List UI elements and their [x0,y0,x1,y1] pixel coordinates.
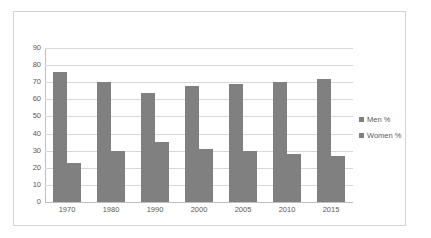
y-axis-tick-label: 80 [17,61,41,69]
x-axis-tick-label: 1970 [45,206,89,214]
bar-women-2015 [331,156,345,202]
x-axis-tick-labels: 1970198019902000200520102015 [45,206,353,220]
legend-swatch-icon [359,133,364,138]
bar-group [141,48,168,202]
bar-women-2000 [199,149,213,202]
y-axis-tick-label: 70 [17,78,41,86]
bar-women-2005 [243,151,257,202]
x-axis-tick-label: 2010 [265,206,309,214]
bar-men-1990 [141,93,155,203]
bar-men-2010 [273,82,287,202]
bar-group [229,48,256,202]
bar-men-1970 [53,72,67,202]
bar-group [97,48,124,202]
y-axis-tick-label: 50 [17,113,41,121]
y-axis-tick-label: 40 [17,130,41,138]
bar-men-2015 [317,79,331,202]
y-axis-tick-label: 60 [17,96,41,104]
legend-label: Women % [367,132,401,140]
bar-men-2000 [185,86,199,202]
bar-women-1990 [155,142,169,202]
gridline [45,202,353,203]
plot-area [45,48,353,202]
x-axis-tick-label: 1980 [89,206,133,214]
legend-swatch-icon [359,117,364,122]
bar-men-2005 [229,84,243,202]
y-axis-tick-label: 90 [17,44,41,52]
x-axis-tick-label: 1990 [133,206,177,214]
y-axis-tick-label: 0 [17,198,41,206]
y-axis-tick-label: 20 [17,164,41,172]
chart-plot-wrapper: 0102030405060708090 19701980199020002005… [14,12,407,227]
y-axis-tick-label: 10 [17,181,41,189]
x-axis-tick-label: 2015 [309,206,353,214]
bar-group [273,48,300,202]
bar-group [185,48,212,202]
y-axis-tick-label: 30 [17,147,41,155]
chart-legend: Men %Women % [359,116,407,147]
legend-item[interactable]: Men % [359,116,407,124]
bar-men-1980 [97,82,111,202]
x-axis-tick-label: 2000 [177,206,221,214]
bar-group [317,48,344,202]
chart-frame: 0102030405060708090 19701980199020002005… [13,11,406,226]
legend-item[interactable]: Women % [359,132,407,140]
bar-women-1980 [111,151,125,202]
bar-women-1970 [67,163,81,202]
legend-label: Men % [367,116,390,124]
bar-group [53,48,80,202]
x-axis-tick-label: 2005 [221,206,265,214]
y-axis-tick-labels: 0102030405060708090 [14,48,41,202]
bar-women-2010 [287,154,301,202]
